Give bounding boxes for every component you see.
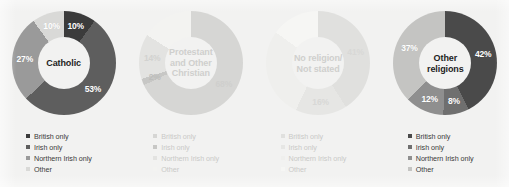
donut-ring: 68%2%14%Protestant and Other Christian — [139, 11, 243, 115]
legend-swatch-icon — [26, 134, 30, 138]
chart-legend: British onlyIrish onlyNorthern Irish onl… — [281, 131, 347, 174]
legend-swatch-icon — [26, 156, 30, 160]
legend-label: Irish only — [34, 143, 62, 152]
chart-legend: British onlyIrish onlyNorthern Irish onl… — [26, 131, 92, 174]
legend-swatch-icon — [281, 134, 285, 138]
legend-item-other: Other — [408, 164, 474, 174]
donut-center-title: Other religions — [386, 53, 504, 74]
legend-item-british-only: British only — [153, 131, 219, 141]
legend-swatch-icon — [408, 167, 412, 171]
chart-legend: British onlyIrish onlyNorthern Irish onl… — [408, 131, 474, 174]
legend-label: Other — [289, 165, 307, 174]
donut-chart-figure: 10%53%27%10%CatholicBritish onlyIrish on… — [0, 0, 509, 187]
legend-swatch-icon — [26, 145, 30, 149]
legend-swatch-icon — [281, 167, 285, 171]
donut-ring: 10%53%27%10%Catholic — [12, 11, 116, 115]
legend-item-british-only: British only — [26, 131, 92, 141]
legend-swatch-icon — [408, 156, 412, 160]
legend-swatch-icon — [153, 134, 157, 138]
segment-percentage-label: 10% — [67, 21, 83, 31]
legend-item-other: Other — [26, 164, 92, 174]
legend-swatch-icon — [26, 167, 30, 171]
legend-item-irish-only: Irish only — [26, 142, 92, 152]
legend-label: Northern Irish only — [416, 154, 474, 163]
segment-percentage-label: 16% — [312, 97, 328, 107]
donut-chart-panel: 68%2%14%Protestant and Other ChristianBr… — [127, 0, 254, 187]
donut-ring: 41%16%No religion/ Not stated — [266, 11, 370, 115]
donut-chart-panel: 42%8%12%37%Other religionsBritish onlyIr… — [382, 0, 509, 187]
donut-center-title: No religion/ Not stated — [259, 53, 377, 74]
legend-item-british-only: British only — [281, 131, 347, 141]
legend-item-irish-only: Irish only — [281, 142, 347, 152]
segment-percentage-label: 53% — [85, 84, 101, 94]
segment-percentage-label: 12% — [422, 94, 438, 104]
chart-legend: British onlyIrish onlyNorthern Irish onl… — [153, 131, 219, 174]
legend-item-other: Other — [281, 164, 347, 174]
legend-swatch-icon — [153, 145, 157, 149]
legend-label: Northern Irish only — [289, 154, 347, 163]
segment-percentage-label: 10% — [43, 21, 59, 31]
legend-label: Irish only — [161, 143, 189, 152]
legend-swatch-icon — [281, 156, 285, 160]
legend-swatch-icon — [153, 156, 157, 160]
segment-percentage-label: 68% — [216, 79, 232, 89]
donut-chart-panel: 41%16%No religion/ Not statedBritish onl… — [255, 0, 382, 187]
legend-label: British only — [161, 132, 196, 141]
legend-item-irish-only: Irish only — [408, 142, 474, 152]
legend-item-northern-irish-only: Northern Irish only — [153, 153, 219, 163]
segment-percentage-label: 37% — [401, 43, 417, 53]
legend-item-northern-irish-only: Northern Irish only — [26, 153, 92, 163]
legend-swatch-icon — [281, 145, 285, 149]
charts-row: 10%53%27%10%CatholicBritish onlyIrish on… — [0, 0, 509, 187]
donut-center-title: Protestant and Other Christian — [132, 47, 250, 79]
legend-label: Other — [34, 165, 52, 174]
legend-label: Northern Irish only — [161, 154, 219, 163]
legend-label: Other — [416, 165, 434, 174]
donut-chart-panel: 10%53%27%10%CatholicBritish onlyIrish on… — [0, 0, 127, 187]
legend-item-northern-irish-only: Northern Irish only — [281, 153, 347, 163]
legend-label: Irish only — [416, 143, 444, 152]
donut-center-title: Catholic — [5, 58, 123, 69]
legend-label: British only — [34, 132, 69, 141]
legend-item-other: Other — [153, 164, 219, 174]
legend-item-irish-only: Irish only — [153, 142, 219, 152]
legend-item-british-only: British only — [408, 131, 474, 141]
donut-ring: 42%8%12%37%Other religions — [393, 11, 497, 115]
legend-label: British only — [416, 132, 451, 141]
legend-label: Irish only — [289, 143, 317, 152]
legend-swatch-icon — [408, 134, 412, 138]
legend-label: Northern Irish only — [34, 154, 92, 163]
legend-swatch-icon — [408, 145, 412, 149]
legend-item-northern-irish-only: Northern Irish only — [408, 153, 474, 163]
legend-label: Other — [161, 165, 179, 174]
segment-percentage-label: 8% — [448, 96, 460, 106]
legend-label: British only — [289, 132, 324, 141]
legend-swatch-icon — [153, 167, 157, 171]
